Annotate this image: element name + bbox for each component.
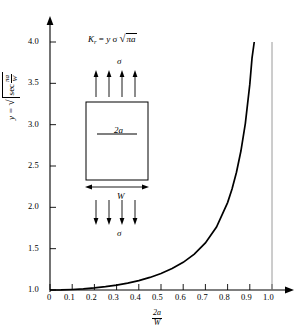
x-tick-label-6: 0.6 (175, 292, 186, 302)
y-tick-label-6: 4.0 (28, 36, 39, 46)
x-tick-label-5: 0.5 (152, 292, 163, 302)
x-tick-label-9: 0.9 (241, 292, 252, 302)
y-axis-arrowhead (47, 16, 54, 25)
stress-label-top: σ (117, 56, 121, 66)
sqrt-icon: √ (119, 32, 125, 44)
x-tick-label-8: 0.8 (219, 292, 230, 302)
y-axis-label-var: y (6, 116, 16, 120)
stress-arrows-top (94, 70, 138, 97)
2a-over-w-fraction: 2a W (152, 309, 162, 327)
stress-arrows-bottom (94, 200, 138, 225)
equation-lhs-subscript: r (94, 38, 97, 45)
pi-a-over-w-fraction: πaW (4, 74, 20, 83)
y-tick-label-3: 2.5 (28, 160, 39, 170)
equation-sigma: σ (112, 34, 117, 44)
x-tick-label-10: 1.0 (263, 292, 274, 302)
stress-label-bottom: σ (117, 228, 121, 238)
x-tick-label-7: 0.7 (197, 292, 208, 302)
crack-length-label: 2a (114, 125, 123, 135)
x-tick-label-1: 0.1 (64, 292, 75, 302)
width-dimension-arrow (85, 185, 149, 190)
x-tick-label-0: 0 (47, 292, 51, 302)
y-tick-label-5: 3.5 (28, 77, 39, 87)
y-tick-label-1: 1.5 (28, 243, 39, 253)
x-axis-arrowhead (285, 287, 294, 294)
equation-equals: = (99, 34, 104, 44)
y-tick-label-4: 3.0 (28, 119, 39, 129)
y-tick-label-2: 2.0 (28, 201, 39, 211)
y-tick-label-0: 1.0 (28, 284, 39, 294)
x-axis-label: 2a W (152, 308, 162, 327)
equation-y: y (106, 34, 110, 44)
plate-width-label: W (117, 191, 125, 201)
x-tick-label-3: 0.3 (108, 292, 119, 302)
fraction-denominator: W (152, 319, 162, 327)
figure-container: 0 0.1 0.2 0.3 0.4 0.5 0.6 0.7 0.8 0.9 1.… (0, 0, 308, 335)
sec-label: sec (6, 84, 16, 96)
x-tick-label-2: 0.2 (86, 292, 97, 302)
y-axis-label: y = √sec πaW (2, 0, 18, 120)
equation-radicand: πa (126, 33, 137, 44)
plate-rectangle (86, 102, 148, 180)
equation-annotation: Kr = y σ √πa (88, 32, 137, 45)
y-axis-label-radicand: sec πaW (2, 72, 20, 98)
fraction-denominator: W (12, 74, 19, 83)
inset-specimen-diagram (70, 52, 180, 242)
sqrt-icon: √ (4, 99, 16, 105)
x-tick-label-4: 0.4 (130, 292, 141, 302)
y-tick-marks (50, 42, 56, 290)
y-axis-label-equals: = (6, 108, 16, 114)
